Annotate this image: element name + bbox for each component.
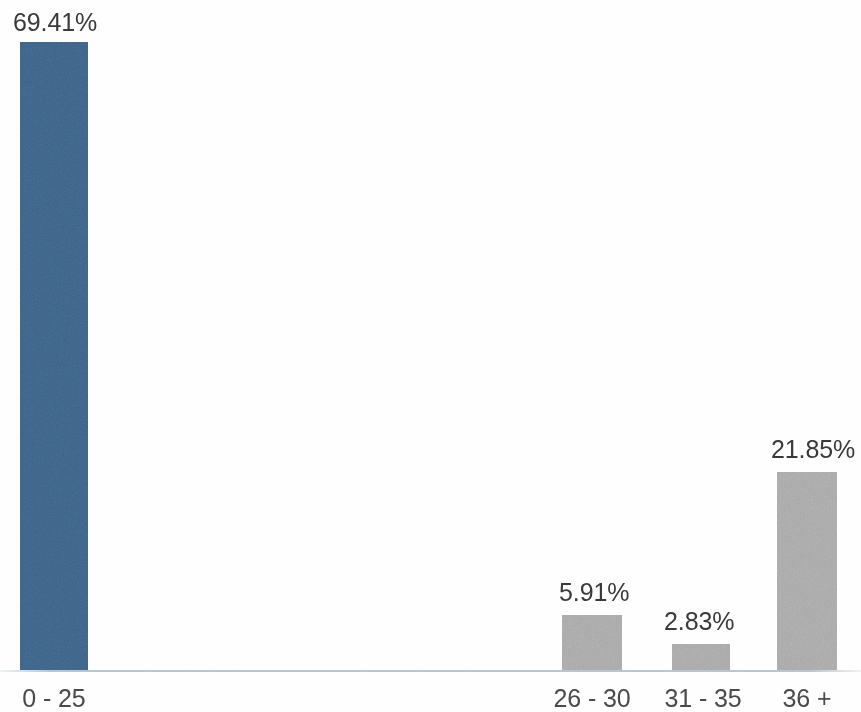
bar-chart: 69.41% 5.91% 2.83% 21.85% 0 - 25 26 - 30… (0, 0, 861, 712)
bar-0-25[interactable] (20, 42, 88, 670)
bar-texture-36-plus (777, 472, 837, 670)
category-label-36-plus: 36 + (770, 686, 844, 711)
category-label-0-25: 0 - 25 (6, 686, 102, 711)
bar-26-30[interactable] (562, 615, 622, 670)
category-label-26-30: 26 - 30 (548, 686, 636, 711)
category-label-31-35: 31 - 35 (659, 686, 747, 711)
bar-texture-31-35 (672, 644, 730, 670)
bar-31-35[interactable] (672, 644, 730, 670)
x-axis-line (0, 670, 861, 672)
bar-texture-0-25 (20, 42, 88, 670)
value-label-31-35: 2.83% (664, 609, 734, 634)
value-label-26-30: 5.91% (559, 580, 629, 605)
plot-area: 69.41% 5.91% 2.83% 21.85% 0 - 25 26 - 30… (0, 0, 861, 712)
bar-texture-26-30 (562, 615, 622, 670)
value-label-0-25: 69.41% (13, 10, 97, 35)
bar-36-plus[interactable] (777, 472, 837, 670)
value-label-36-plus: 21.85% (771, 437, 855, 462)
